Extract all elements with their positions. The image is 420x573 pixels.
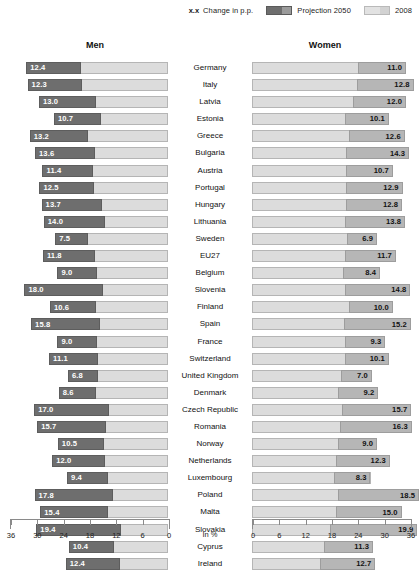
chart-row: 13.6Bulgaria14.3 <box>0 145 420 162</box>
bar-projection-2050-men: 12.0 <box>52 455 105 467</box>
bar-value-women: 11.7 <box>377 252 392 260</box>
bar-group-men: 8.6 <box>59 387 168 399</box>
bar-projection-2050-women: 10.7 <box>346 165 393 177</box>
row-country-label: Malta <box>168 506 252 518</box>
bar-group-women: 12.0 <box>252 96 406 108</box>
row-country-label: France <box>168 336 252 348</box>
column-header-women: Women <box>250 40 400 50</box>
row-country-label: Luxembourg <box>168 472 252 484</box>
bar-value-men: 17.8 <box>39 492 54 500</box>
legend-label-2008: 2008 <box>395 6 412 15</box>
axis-women-tick-label: 36 <box>407 531 415 540</box>
row-country-label: Portugal <box>168 182 252 194</box>
bar-value-men: 10.7 <box>58 115 73 123</box>
bar-projection-2050-women: 9.0 <box>338 438 378 450</box>
chart-axes: 363024181260 061218243036 In % <box>0 519 420 555</box>
bar-projection-2050-women: 13.8 <box>345 216 406 228</box>
bar-group-women: 18.5 <box>252 489 419 501</box>
bar-value-women: 8.3 <box>356 474 367 482</box>
bar-value-men: 13.0 <box>43 98 58 106</box>
chart-row: 17.8Poland18.5 <box>0 487 420 504</box>
bar-projection-2050-women: 10.1 <box>345 113 389 125</box>
legend-label-projection-2050: Projection 2050 <box>297 6 351 15</box>
bar-value-women: 11.0 <box>387 64 402 72</box>
row-country-label: EU27 <box>168 250 252 262</box>
row-country-label: Netherlands <box>168 455 252 467</box>
bar-group-men: 7.5 <box>55 233 168 245</box>
bar-group-men: 12.4 <box>26 62 168 74</box>
bar-projection-2050-women: 15.7 <box>342 404 411 416</box>
bar-value-men: 13.7 <box>46 201 61 209</box>
legend-change-marker: x.x <box>189 6 199 15</box>
bar-value-women: 15.7 <box>392 406 407 414</box>
row-country-label: Finland <box>168 301 252 313</box>
chart-row: 9.4Luxembourg8.3 <box>0 470 420 487</box>
bar-value-men: 11.4 <box>46 167 61 175</box>
bar-value-men: 15.4 <box>44 509 59 517</box>
axis-men-tick-label: 24 <box>59 531 67 540</box>
axis-men-tick-label: 36 <box>7 531 15 540</box>
bar-group-men: 12.4 <box>66 558 168 570</box>
bar-group-women: 12.7 <box>252 558 375 570</box>
chart-row: 7.5Sweden6.9 <box>0 231 420 248</box>
bar-projection-2050-men: 6.8 <box>68 370 98 382</box>
bar-group-men: 15.8 <box>31 318 168 330</box>
bar-group-women: 6.9 <box>252 233 377 245</box>
bar-projection-2050-women: 12.3 <box>336 455 390 467</box>
axis-men-tick <box>37 520 38 525</box>
axis-men-tick <box>169 520 170 525</box>
bar-group-women: 12.9 <box>252 182 403 194</box>
row-country-label: Sweden <box>168 233 252 245</box>
bar-projection-2050-women: 15.2 <box>344 318 411 330</box>
axis-men-tick <box>90 520 91 525</box>
bar-projection-2050-women: 9.3 <box>345 336 386 348</box>
axis-women: 061218243036 <box>252 519 412 529</box>
row-country-label: Romania <box>168 421 252 433</box>
bar-value-men: 9.4 <box>71 474 82 482</box>
chart-row: 17.0Czech Republic15.7 <box>0 402 420 419</box>
bar-value-men: 10.6 <box>54 304 69 312</box>
row-country-label: Switzerland <box>168 353 252 365</box>
bar-projection-2050-women: 16.3 <box>340 421 412 433</box>
axis-men-tick-label: 30 <box>33 531 41 540</box>
axis-men-tick <box>143 520 144 525</box>
bar-projection-2050-men: 9.0 <box>57 336 97 348</box>
row-country-label: Lithuania <box>168 216 252 228</box>
axis-men-tick-label: 6 <box>141 531 145 540</box>
bar-value-women: 12.7 <box>356 560 371 568</box>
bar-projection-2050-women: 15.0 <box>336 506 402 518</box>
bar-group-men: 11.4 <box>42 165 168 177</box>
bar-projection-2050-men: 13.7 <box>42 199 102 211</box>
chart-row: 13.0Latvia12.0 <box>0 94 420 111</box>
legend-swatch-projection-2050 <box>266 6 292 15</box>
bar-projection-2050-men: 12.3 <box>28 79 82 91</box>
bar-group-women: 15.2 <box>252 318 411 330</box>
bar-group-women: 14.3 <box>252 147 409 159</box>
bar-group-men: 17.8 <box>35 489 168 501</box>
row-country-label: Italy <box>168 79 252 91</box>
bar-value-women: 6.9 <box>362 235 373 243</box>
bar-projection-2050-men: 14.0 <box>44 216 105 228</box>
bar-value-men: 17.0 <box>38 406 53 414</box>
bar-projection-2050-women: 14.3 <box>346 147 409 159</box>
axis-men-tick-label: 18 <box>86 531 94 540</box>
bar-value-women: 15.2 <box>392 321 407 329</box>
bar-group-men: 11.1 <box>49 353 168 365</box>
chart-legend: x.x Change in p.p. Projection 2050 2008 <box>0 0 420 20</box>
bar-value-men: 13.2 <box>34 133 49 141</box>
bar-projection-2050-men: 10.7 <box>54 113 101 125</box>
bar-projection-2050-women: 9.2 <box>338 387 378 399</box>
bar-group-women: 10.1 <box>252 353 389 365</box>
bar-group-women: 12.8 <box>252 199 402 211</box>
row-country-label: Greece <box>168 130 252 142</box>
row-country-label: United Kingdom <box>168 370 252 382</box>
chart-row: 14.0Lithuania13.8 <box>0 214 420 231</box>
row-country-label: Poland <box>168 489 252 501</box>
bar-group-men: 18.0 <box>24 284 168 296</box>
chart-row: 11.1Switzerland10.1 <box>0 351 420 368</box>
row-country-label: Spain <box>168 318 252 330</box>
bar-projection-2050-men: 17.0 <box>34 404 109 416</box>
bar-projection-2050-men: 9.0 <box>57 267 97 279</box>
bar-projection-2050-men: 11.4 <box>42 165 92 177</box>
axis-men-tick <box>64 520 65 525</box>
